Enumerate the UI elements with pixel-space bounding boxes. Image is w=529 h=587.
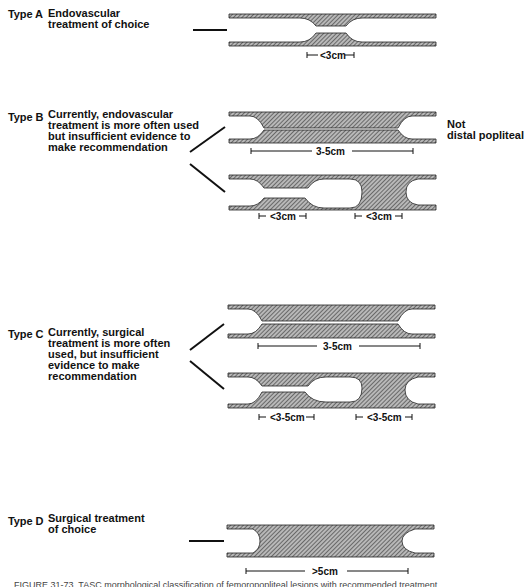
type-b-connector xyxy=(190,127,225,192)
svg-text:<3-5cm: <3-5cm xyxy=(270,412,305,423)
svg-text:<3cm: <3cm xyxy=(366,211,392,222)
figure-caption: FIGURE 31-73. TASC morphological classif… xyxy=(14,578,524,587)
type-d-vessel: >5cm xyxy=(189,525,434,577)
svg-text:3-5cm: 3-5cm xyxy=(316,146,345,157)
svg-text:>5cm: >5cm xyxy=(312,566,338,577)
type-b-vessel-2: <3cm <3cm xyxy=(229,175,436,222)
type-d-measure: >5cm xyxy=(246,566,408,577)
type-a-vessel: <3cm xyxy=(193,14,436,61)
type-c-vessel-2: <3-5cm <3-5cm xyxy=(228,373,435,423)
type-b-measure-2: <3cm xyxy=(259,211,306,222)
type-b-vessel-1: 3-5cm xyxy=(229,112,436,157)
type-b-measure-3: <3cm xyxy=(355,211,402,222)
svg-text:<3-5cm: <3-5cm xyxy=(367,412,402,423)
type-c-measure-2: <3-5cm xyxy=(259,412,314,423)
type-c-vessel-1: 3-5cm xyxy=(228,305,435,352)
type-c-measure-1: 3-5cm xyxy=(258,341,420,352)
type-c-measure-3: <3-5cm xyxy=(356,412,412,423)
type-a-measure: <3cm xyxy=(307,50,354,61)
lesion-diagram: <3cm 3-5cm <3cm <3cm xyxy=(0,0,529,587)
type-c-connector xyxy=(190,324,224,389)
svg-text:3-5cm: 3-5cm xyxy=(323,341,352,352)
type-b-measure-1: 3-5cm xyxy=(251,146,413,157)
svg-text:<3cm: <3cm xyxy=(270,211,296,222)
svg-text:<3cm: <3cm xyxy=(320,50,346,61)
